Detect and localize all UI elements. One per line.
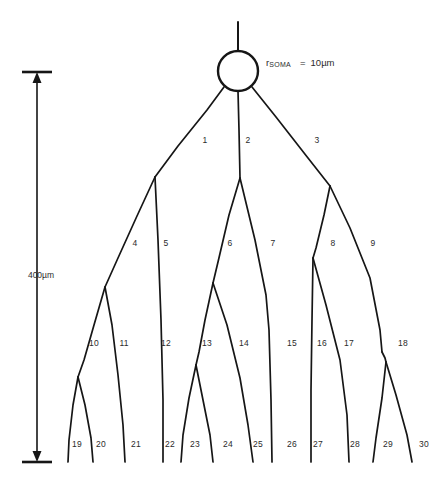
branch-4-path <box>105 177 155 287</box>
segment-label-16: 16 <box>317 339 327 348</box>
branch-18-path <box>382 352 386 362</box>
segment-label-12: 12 <box>161 339 171 348</box>
branch-6-path <box>213 178 240 283</box>
branch-13-path <box>196 283 213 365</box>
segment-label-5: 5 <box>164 239 169 248</box>
scale-bar-group <box>22 72 52 462</box>
branch-20-path <box>78 377 93 462</box>
scale-bar-arrow-down <box>33 451 42 462</box>
segment-label-10: 10 <box>89 339 99 348</box>
segment-label-1: 1 <box>203 136 208 145</box>
segment-label-29: 29 <box>383 440 393 449</box>
segment-label-17: 17 <box>344 339 354 348</box>
segment-label-11: 11 <box>119 339 128 348</box>
soma-radius-equals: = <box>300 57 306 68</box>
scale-bar-label: 400µm <box>28 271 54 280</box>
branch-10-path <box>78 287 105 377</box>
tertiary-branches <box>78 258 386 462</box>
segment-label-3: 3 <box>315 136 320 145</box>
segment-label-20: 20 <box>96 440 106 449</box>
branch-14-path <box>213 283 253 462</box>
segment-label-15: 15 <box>287 339 297 348</box>
segment-label-4: 4 <box>133 239 138 248</box>
branch-11-path <box>105 287 125 462</box>
branch-8-path <box>313 186 330 258</box>
soma-radius-label: rSOMA=10µm <box>266 58 335 69</box>
branch-1-path <box>155 87 224 177</box>
segment-label-2: 2 <box>246 136 251 145</box>
segment-label-25: 25 <box>253 440 263 449</box>
segment-label-6: 6 <box>228 239 233 248</box>
branch-7-path <box>240 178 272 462</box>
soma-group <box>218 22 258 91</box>
scale-bar-arrow-up <box>33 72 42 83</box>
segment-label-13: 13 <box>202 339 212 348</box>
segment-label-9: 9 <box>371 239 376 248</box>
branch-16-path <box>311 258 313 462</box>
segment-label-14: 14 <box>239 339 249 348</box>
segment-label-21: 21 <box>131 440 141 449</box>
branch-9-path <box>330 186 382 352</box>
segment-label-22: 22 <box>165 440 175 449</box>
secondary-branches <box>105 177 382 462</box>
segment-label-30: 30 <box>419 440 429 449</box>
segment-label-28: 28 <box>350 440 360 449</box>
segment-label-18: 18 <box>398 339 408 348</box>
soma-radius-subscript: SOMA <box>269 61 291 68</box>
segment-label-19: 19 <box>72 440 82 449</box>
branch-2-path <box>238 91 240 178</box>
segment-label-23: 23 <box>190 440 200 449</box>
segment-label-26: 26 <box>287 440 297 449</box>
soma-circle <box>218 51 258 91</box>
segment-label-8: 8 <box>331 239 336 248</box>
primary-branches <box>155 87 330 186</box>
segment-label-7: 7 <box>271 239 276 248</box>
branch-5-path <box>155 177 163 462</box>
branch-17-path <box>313 258 349 462</box>
segment-label-24: 24 <box>223 440 233 449</box>
segment-label-27: 27 <box>313 440 323 449</box>
branch-19-path <box>68 377 78 462</box>
dendrite-tree-drawing <box>0 0 444 487</box>
soma-radius-value: 10µm <box>311 57 335 68</box>
neuron-branching-figure: rSOMA=10µm 400µm 12345678910111213141516… <box>0 0 444 487</box>
